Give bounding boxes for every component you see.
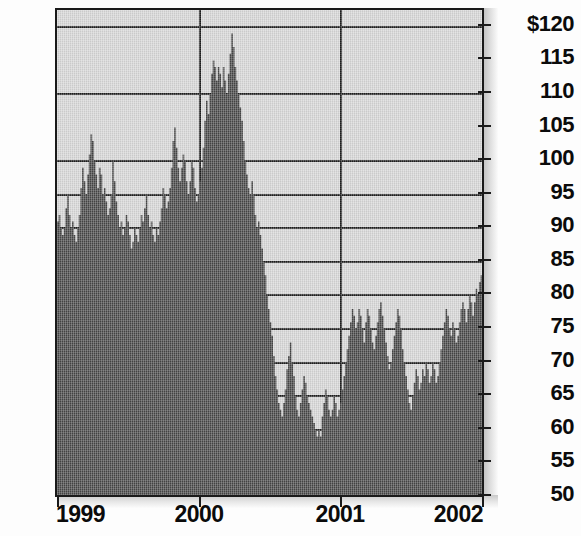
y-tick-mark xyxy=(478,326,491,328)
y-tick-mark xyxy=(478,125,491,127)
y-tick-mark xyxy=(478,158,491,160)
y-axis-tick-label: 105 xyxy=(498,114,574,136)
price-area-series xyxy=(57,10,484,495)
stock-price-chart: $12011511010510095908580757065605550 199… xyxy=(0,0,581,536)
y-axis-tick-label: 50 xyxy=(498,483,574,505)
y-tick-mark xyxy=(478,460,491,462)
y-tick-mark xyxy=(478,192,491,194)
y-axis-tick-label: 90 xyxy=(498,214,574,236)
y-tick-mark xyxy=(478,292,491,294)
plot-area xyxy=(57,8,484,495)
x-axis-tick-label: 1999 xyxy=(56,502,156,527)
y-axis-tick-label: 80 xyxy=(498,281,574,303)
y-axis-line-right xyxy=(482,8,484,497)
y-tick-mark xyxy=(478,259,491,261)
y-axis-tick-label: 100 xyxy=(498,147,574,169)
plot-right-edge-shading xyxy=(484,8,498,497)
y-tick-mark xyxy=(478,360,491,362)
y-tick-mark xyxy=(478,494,491,496)
y-tick-mark xyxy=(478,393,491,395)
x-axis-tick-label: 2001 xyxy=(290,502,390,527)
y-axis-tick-label: 115 xyxy=(498,46,574,68)
x-axis-tick-label: 2000 xyxy=(149,502,249,527)
y-tick-mark xyxy=(478,225,491,227)
y-axis-tick-label: $120 xyxy=(498,13,574,35)
y-axis-line-left xyxy=(55,8,57,497)
y-tick-mark xyxy=(478,91,491,93)
y-tick-mark xyxy=(478,427,491,429)
y-axis-tick-label: 70 xyxy=(498,349,574,371)
y-axis-tick-label: 85 xyxy=(498,248,574,270)
y-axis-tick-label: 65 xyxy=(498,382,574,404)
y-axis-tick-label: 95 xyxy=(498,181,574,203)
y-tick-mark xyxy=(478,24,491,26)
y-tick-mark xyxy=(478,57,491,59)
y-axis-tick-label: 60 xyxy=(498,416,574,438)
x-axis-tick-label: 2002 xyxy=(383,502,483,527)
x-axis-line xyxy=(55,495,484,497)
y-axis-tick-label: 75 xyxy=(498,315,574,337)
y-axis-tick-label: 110 xyxy=(498,80,574,102)
y-axis-tick-label: 55 xyxy=(498,449,574,471)
